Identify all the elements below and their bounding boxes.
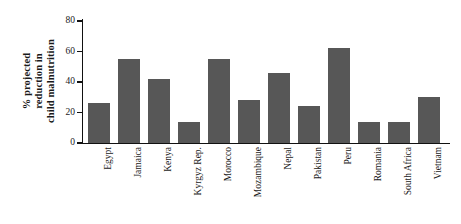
x-axis-label: Kenya (163, 147, 174, 172)
x-axis-label: Pakistan (313, 147, 324, 179)
bar (328, 48, 350, 143)
bar (148, 79, 170, 143)
y-tick-label: 0 (70, 136, 75, 149)
y-tick-label: 20 (66, 106, 76, 119)
plot-area: 020406080 (82, 21, 450, 143)
bar (118, 59, 140, 143)
bar (268, 73, 290, 143)
x-axis-label: Peru (343, 147, 354, 164)
x-axis-label: Kyrgyz Rep. (193, 147, 204, 195)
y-axis-title-line-1: % projected (21, 53, 33, 110)
y-tick-label: 80 (66, 14, 76, 27)
bar (238, 100, 260, 143)
y-axis-title: % projected reduction in child malnutrit… (16, 18, 62, 144)
x-axis-category-labels: EgyptJamaicaKenyaKyrgyz Rep.MoroccoMozam… (82, 147, 450, 221)
bar (418, 97, 440, 143)
y-tick-label: 40 (66, 75, 76, 88)
x-axis-label: Egypt (103, 147, 114, 170)
y-axis-title-line-2: reduction in (33, 53, 45, 109)
x-axis-label: Vietnam (433, 147, 444, 179)
x-axis-label: Jamaica (133, 147, 144, 178)
bar-chart: % projected reduction in child malnutrit… (0, 0, 461, 224)
x-axis-label: Morocco (223, 147, 234, 181)
bar (178, 122, 200, 143)
bar (358, 122, 380, 143)
x-axis-line (82, 143, 450, 144)
bar (298, 106, 320, 143)
bar (388, 122, 410, 143)
bars-layer (82, 21, 450, 143)
bar (88, 103, 110, 143)
x-axis-label: Mozambique (253, 147, 264, 197)
bar (208, 59, 230, 143)
y-axis-title-line-3: child malnutrition (45, 39, 57, 123)
x-axis-label: Nepal (283, 147, 294, 170)
x-axis-label: South Africa (403, 147, 414, 195)
x-axis-label: Romania (373, 147, 384, 181)
y-tick-label: 60 (66, 45, 76, 58)
